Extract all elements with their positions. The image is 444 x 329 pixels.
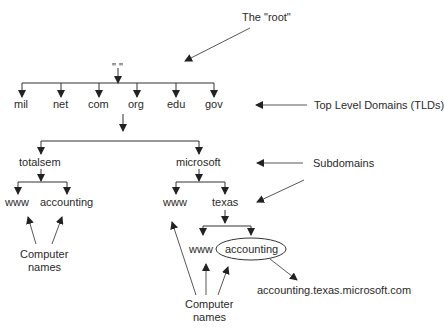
dns-hierarchy-diagram: The "root" " " mil net com org edu gov T… — [0, 0, 444, 329]
tld-gov: gov — [205, 98, 223, 110]
computer-names-left-arrow-2 — [52, 217, 62, 244]
tld-net: net — [53, 98, 68, 110]
node-totalsem-www: www — [4, 196, 29, 208]
node-totalsem-accounting: accounting — [40, 196, 93, 208]
tld-label: Top Level Domains (TLDs) — [314, 99, 444, 111]
computer-names-left-line2: names — [28, 261, 62, 273]
subdomains-label: Subdomains — [313, 157, 375, 169]
computer-names-right-arrow-3 — [218, 267, 228, 295]
tld-org: org — [128, 98, 144, 110]
node-totalsem: totalsem — [19, 156, 61, 168]
computer-names-right-line1: Computer — [185, 298, 234, 310]
computer-names-left-arrow-1 — [28, 217, 36, 244]
fqdn-arrow — [270, 259, 297, 280]
subdomains-to-texas-arrow — [257, 180, 304, 202]
node-texas-www: www — [188, 243, 213, 255]
root-node: " " — [112, 61, 123, 73]
node-texas-accounting: accounting — [225, 243, 278, 255]
fqdn-label: accounting.texas.microsoft.com — [257, 284, 411, 296]
root-pointer-arrow — [185, 28, 250, 61]
computer-names-right-line2: names — [193, 311, 227, 323]
tld-mil: mil — [14, 98, 28, 110]
computer-names-left-line1: Computer — [20, 248, 69, 260]
root-label: The "root" — [242, 11, 291, 23]
node-microsoft-www: www — [162, 196, 187, 208]
node-texas: texas — [212, 196, 239, 208]
computer-names-right-arrow-1 — [172, 222, 196, 295]
tld-com: com — [88, 98, 109, 110]
node-microsoft: microsoft — [176, 156, 221, 168]
tld-edu: edu — [167, 98, 185, 110]
